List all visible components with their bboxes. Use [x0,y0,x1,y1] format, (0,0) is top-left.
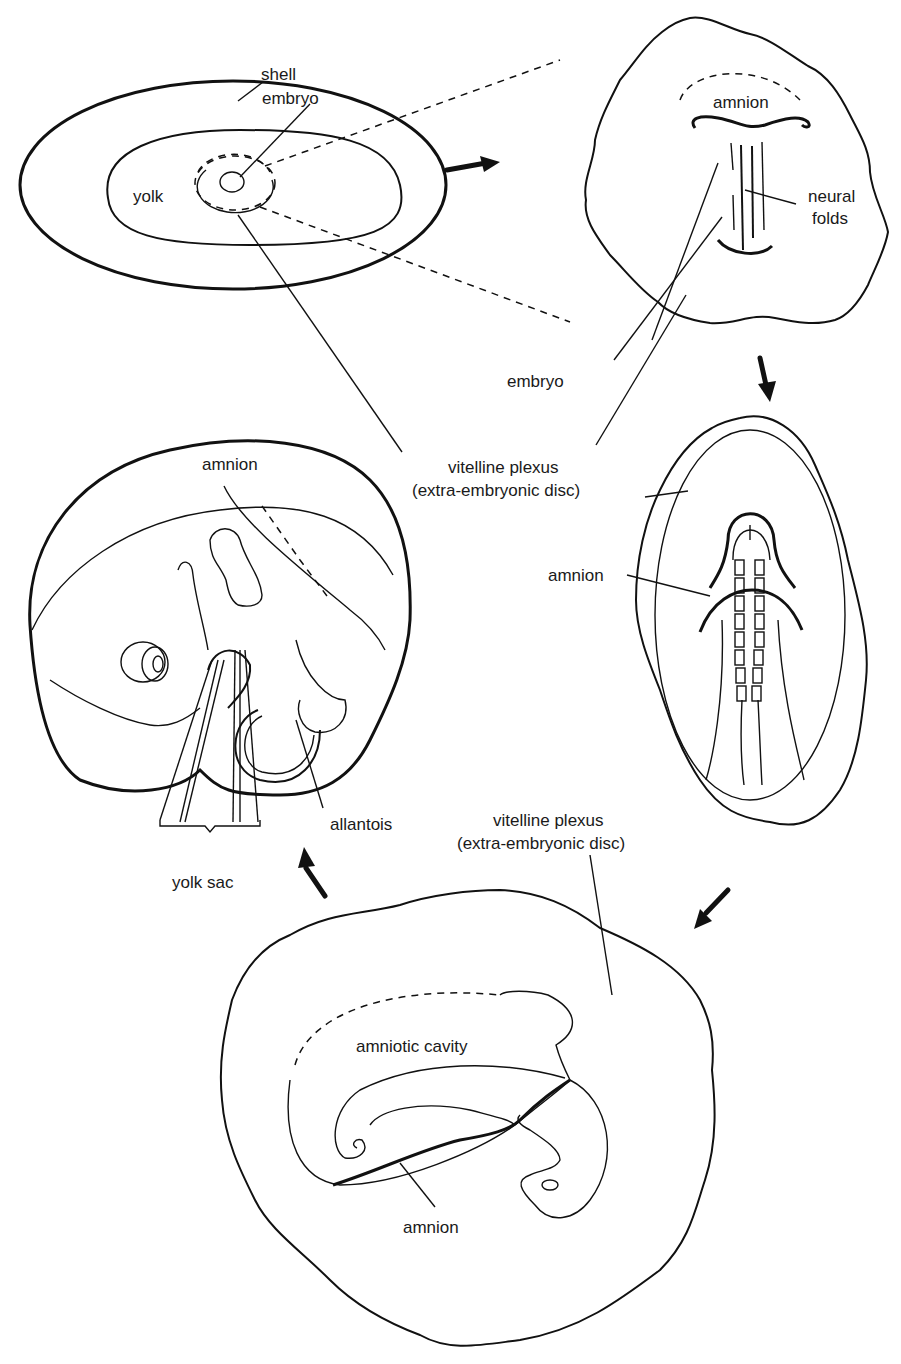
egg-overview: shell embryo yolk [20,60,570,452]
early-embryo-disc: amnion neural folds [585,18,888,445]
label-neural: neural [808,187,855,206]
label-vitelline-2-line2: (extra-embryonic disc) [457,834,625,853]
arrow-right-icon [447,156,500,172]
late-allantois-loop [235,710,320,782]
arrow-up-left-icon [298,847,325,896]
wavy-disc-outline [585,18,888,324]
arrow-down-left-icon [694,890,728,929]
late-stalk-line-6 [245,650,258,822]
label-vitelline-2-line1: vitelline plexus [493,811,604,830]
label-embryo-mid: embryo [507,372,564,391]
amnion-fold-somite [700,590,802,632]
zoom-dash-bottom [260,207,570,322]
label-amniotic-cavity: amniotic cavity [356,1037,468,1056]
label-amnion-bottom: amnion [403,1218,459,1237]
label-amnion-disc: amnion [713,93,769,112]
leader-embryo-mid-b [614,217,722,360]
somite-streak-l2 [741,700,744,785]
label-vitelline-1-line2: (extra-embryonic disc) [412,481,580,500]
late-tail-fin [178,562,208,650]
label-allantois: allantois [330,815,392,834]
somite-head-fold [710,514,795,588]
label-yolk-sac: yolk sac [172,873,234,892]
embryo-disc-dashed [195,156,275,210]
label-amnion-somite: amnion [548,566,604,585]
late-forelimb [210,529,262,606]
amniotic-outer-fold [288,991,572,1185]
label-folds: folds [812,209,848,228]
somite-outer-wavy [636,416,867,824]
leader-amnion-bottom [400,1163,435,1207]
late-amnion-line [32,507,393,630]
somite-streak-r1 [758,700,762,785]
late-outer-membrane [30,441,411,795]
somite-head [733,530,770,560]
somite-streak-l1 [706,620,722,780]
late-hindlimb [296,640,346,732]
label-embryo-top: embryo [262,89,319,108]
somite-stage: amnion [548,416,867,824]
bottom-wavy-outline [221,890,715,1346]
egg-shell-outline [20,81,446,289]
amniotic-embryo-spot [542,1180,558,1190]
amniotic-fold-stage: amniotic cavity amnion [221,855,715,1346]
neural-fold-2 [741,145,743,250]
somite-streak-r2 [778,620,804,780]
late-eye-mid [142,647,168,681]
label-amnion-late: amnion [202,455,258,474]
late-amnion-dashes [262,506,330,600]
leader-vitelline-2 [590,855,612,995]
leader-vitelline-1b [596,295,686,445]
label-yolk: yolk [133,187,164,206]
amnion-fold-tail [718,240,772,253]
leader-shell [238,82,263,101]
amniotic-embryo-head [370,1106,515,1125]
zoom-dash-top [265,60,560,166]
late-yolk-region [50,680,200,726]
label-vitelline-1-line1: vitelline plexus [448,458,559,477]
leader-embryo-mid-a [652,163,718,340]
amniotic-embryo-body [518,1080,607,1218]
neural-fold-1b [733,195,734,230]
somite-blocks [735,560,764,701]
leader-vitelline-1c [645,491,688,497]
late-embryo: amnion allantois yolk sac [30,441,411,892]
somite-inner-oval [655,430,845,800]
leader-embryo [240,104,310,177]
leader-vitelline-1a [238,215,402,452]
neural-fold-4 [762,142,764,230]
embryo-development-diagram: shell embryo yolk amnion neural folds em… [0,0,901,1364]
neural-fold-1 [731,143,733,170]
late-stalk-line-4 [233,650,235,822]
leader-amnion-somite [627,575,710,596]
late-eye-inner [153,656,163,672]
late-yolk-brace [160,820,260,832]
embryo-spot [220,172,244,192]
amnion-fold-head [693,117,809,128]
arrow-down-icon [758,358,776,402]
label-shell: shell [261,65,296,84]
